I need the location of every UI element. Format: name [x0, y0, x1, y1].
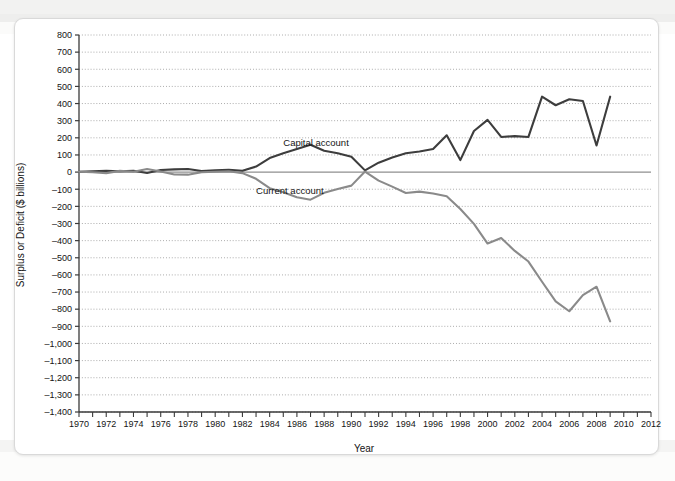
x-tick-label: 1994 — [396, 419, 416, 429]
x-tick-label: 1984 — [260, 419, 280, 429]
series-line-capital-account — [79, 97, 610, 173]
x-axis-tick-labels: 1970197219741976197819801982198419861988… — [69, 419, 661, 429]
x-tick-label: 1972 — [96, 419, 116, 429]
series-line-current-account — [79, 169, 610, 321]
y-tick-label: 0 — [67, 167, 72, 177]
x-tick-label: 1970 — [69, 419, 89, 429]
x-axis-ticks — [79, 412, 651, 417]
x-tick-label: 2004 — [532, 419, 552, 429]
capital-account-annotation: Capital account — [283, 137, 349, 148]
x-axis-title: Year — [354, 443, 375, 454]
x-tick-label: 2006 — [559, 419, 579, 429]
y-tick-label: –900 — [52, 322, 72, 332]
y-tick-label: –1,100 — [44, 356, 72, 366]
y-tick-label: –1,200 — [44, 373, 72, 383]
chart-svg: 8007006005004003002001000–100–200–300–40… — [0, 0, 675, 481]
x-tick-label: 1988 — [314, 419, 334, 429]
x-tick-label: 2010 — [614, 419, 634, 429]
x-tick-label: 1982 — [232, 419, 252, 429]
y-tick-label: 300 — [57, 116, 72, 126]
y-tick-label: 500 — [57, 82, 72, 92]
x-tick-label: 1990 — [341, 419, 361, 429]
x-tick-label: 2008 — [587, 419, 607, 429]
current-account-annotation: Current account — [256, 185, 324, 196]
x-tick-label: 1978 — [178, 419, 198, 429]
grid-lines — [79, 35, 651, 412]
x-tick-label: 1986 — [287, 419, 307, 429]
y-tick-label: –700 — [52, 287, 72, 297]
y-tick-label: 700 — [57, 47, 72, 57]
x-tick-label: 2002 — [505, 419, 525, 429]
data-series — [79, 97, 610, 322]
y-tick-label: –500 — [52, 253, 72, 263]
y-tick-label: 200 — [57, 133, 72, 143]
y-tick-label: –300 — [52, 219, 72, 229]
x-tick-label: 1980 — [205, 419, 225, 429]
y-tick-label: –1,300 — [44, 390, 72, 400]
y-tick-label: –200 — [52, 202, 72, 212]
y-tick-label: –1,000 — [44, 339, 72, 349]
x-tick-label: 2012 — [641, 419, 661, 429]
y-tick-label: –100 — [52, 185, 72, 195]
y-tick-label: –800 — [52, 304, 72, 314]
x-tick-label: 1976 — [151, 419, 171, 429]
y-tick-label: –600 — [52, 270, 72, 280]
y-tick-label: 400 — [57, 99, 72, 109]
x-tick-label: 1974 — [123, 419, 143, 429]
y-tick-label: –400 — [52, 236, 72, 246]
y-axis-title: Surplus or Deficit ($ billions) — [15, 163, 26, 288]
x-tick-label: 1996 — [423, 419, 443, 429]
x-tick-label: 1992 — [369, 419, 389, 429]
x-tick-label: 1998 — [450, 419, 470, 429]
y-axis-tick-labels: 8007006005004003002001000–100–200–300–40… — [44, 30, 72, 417]
line-chart: 8007006005004003002001000–100–200–300–40… — [0, 0, 675, 481]
y-tick-label: 600 — [57, 65, 72, 75]
y-tick-label: 800 — [57, 30, 72, 40]
y-tick-label: 100 — [57, 150, 72, 160]
x-tick-label: 2000 — [478, 419, 498, 429]
y-tick-label: –1,400 — [44, 407, 72, 417]
